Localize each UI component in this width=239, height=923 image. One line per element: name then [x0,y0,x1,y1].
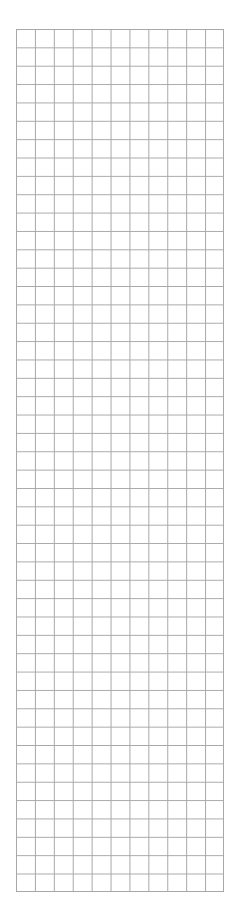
grid-paper [16,29,224,892]
